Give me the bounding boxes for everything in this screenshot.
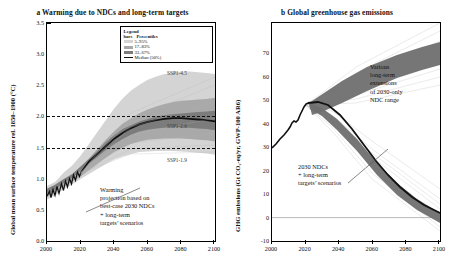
y-tick-a-1: 0.5 [36, 205, 44, 212]
y-tick-a-2: 1.0 [36, 174, 44, 181]
panel-a-title-text: Warming due to NDCs and long-term target… [42, 8, 189, 17]
x-tick-b-3: 2060 [366, 245, 378, 252]
panel-a-x-ticks: 2000 2020 2040 2060 2080 2100 [46, 240, 214, 260]
panel-a: a Warming due to NDCs and long-term targ… [0, 0, 225, 273]
x-tick-a-4: 2080 [174, 245, 186, 252]
panel-b: b Global greenhouse gas emissions GHG em… [225, 0, 449, 273]
panel-b-y-ticks: -10 0 10 20 30 40 50 60 70 [225, 22, 269, 240]
legend-swatch-33-67 [124, 51, 133, 54]
x-tick-a-0: 2000 [40, 245, 52, 252]
panel-b-label: b [281, 8, 285, 17]
scenario-label-ssp1-45: SSP1-4.5 [167, 70, 187, 76]
panel-a-title: a Warming due to NDCs and long-term targ… [0, 8, 225, 17]
y-tick-b-5: 40 [263, 119, 269, 126]
panel-b-chart [272, 23, 440, 241]
panel-b-annotation-upper: Various long-term extensions of 2030-onl… [370, 63, 432, 104]
y-tick-a-4: 2.0 [36, 112, 44, 119]
x-tick-b-4: 2080 [399, 245, 411, 252]
legend-swatch-median [124, 57, 133, 59]
y-tick-a-6: 3.0 [36, 50, 44, 57]
y-tick-a-5: 2.5 [36, 81, 44, 88]
y-tick-a-0: 0.0 [36, 237, 44, 244]
panel-b-title: b Global greenhouse gas emissions [225, 8, 449, 17]
legend-col1-header: bars [124, 34, 135, 39]
x-tick-a-5: 2100 [208, 245, 220, 252]
y-tick-b-0: -10 [261, 237, 269, 244]
scenario-label-ssp1-26: SSP1-2.6 [167, 123, 187, 129]
panel-a-legend: Legend bars Percentiles 5–95% 17–83% 33–… [120, 26, 213, 63]
panel-a-label: a [36, 8, 40, 17]
panel-a-y-ticks: 0.0 0.5 1.0 1.5 2.0 2.5 3.0 3.5 [0, 22, 44, 240]
y-tick-b-8: 70 [263, 49, 269, 56]
scenario-label-ssp1-19: SSP1-1.9 [167, 157, 187, 163]
legend-swatch-17-83 [124, 46, 133, 49]
y-tick-a-3: 1.5 [36, 143, 44, 150]
y-tick-b-4: 30 [263, 143, 269, 150]
figure-root: a Warming due to NDCs and long-term targ… [0, 0, 449, 273]
y-tick-a-7: 3.5 [36, 19, 44, 26]
x-tick-b-1: 2020 [298, 245, 310, 252]
panel-b-plot-area: Various long-term extensions of 2030-onl… [271, 22, 441, 242]
y-tick-b-7: 60 [263, 72, 269, 79]
panel-a-dashline-2p0 [47, 116, 215, 117]
y-tick-b-3: 20 [263, 166, 269, 173]
x-tick-b-0: 2000 [265, 245, 277, 252]
x-tick-a-1: 2020 [73, 245, 85, 252]
panel-a-dashline-1p5 [47, 148, 215, 149]
y-tick-b-1: 0 [266, 213, 269, 220]
panel-b-x-ticks: 2000 2020 2040 2060 2080 2100 [271, 240, 439, 260]
panel-a-leader-line [82, 168, 142, 214]
x-tick-b-5: 2100 [433, 245, 445, 252]
panel-b-title-text: Global greenhouse gas emissions [287, 8, 393, 17]
legend-label-median: Median (50%) [135, 55, 162, 60]
x-tick-a-3: 2060 [141, 245, 153, 252]
legend-row-median: Median (50%) [124, 55, 210, 60]
y-tick-b-6: 50 [263, 96, 269, 103]
y-tick-b-2: 10 [263, 190, 269, 197]
legend-swatch-5-95 [124, 40, 133, 43]
x-tick-b-2: 2040 [332, 245, 344, 252]
x-tick-a-2: 2040 [107, 245, 119, 252]
panel-b-leader-line [346, 149, 392, 191]
